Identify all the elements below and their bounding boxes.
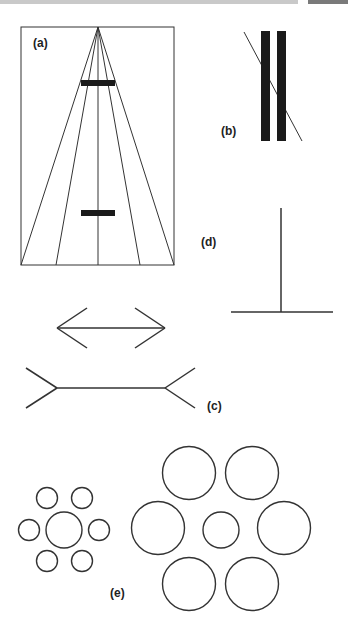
poggendorff-bar-left (261, 31, 270, 141)
label-e: (e) (110, 586, 125, 600)
panel-b-poggendorff (244, 32, 302, 141)
panel-a-ponzo (21, 27, 174, 265)
label-b: (b) (221, 124, 236, 138)
label-a: (a) (33, 36, 48, 50)
label-d: (d) (201, 235, 216, 249)
ponzo-bar-bottom (81, 210, 115, 216)
ponzo-bar-top (81, 80, 115, 86)
illusions-figure (0, 0, 348, 622)
poggendorff-bar-right (277, 31, 286, 141)
panel-e-ebbinghaus (19, 447, 311, 611)
label-c: (c) (207, 399, 222, 413)
panel-c-muller-lyer (26, 308, 195, 408)
panel-d-vertical-horizontal (231, 208, 333, 312)
